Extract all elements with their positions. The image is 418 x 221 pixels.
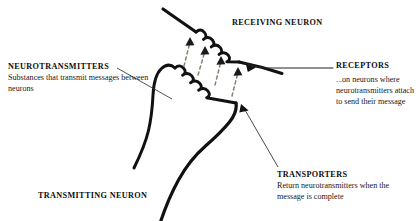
synapse-diagram: NEUROTRANSMITTERS Substances that transm… (0, 0, 418, 221)
transporters-heading: TRANSPORTERS (277, 170, 417, 180)
straight-leader-arrow-icon (239, 104, 248, 113)
transporters-body: Return neurotransmitters when the messag… (277, 180, 417, 202)
label-receiving-neuron: RECEIVING NEURON (232, 18, 322, 28)
receiving-neuron-axon (163, 9, 196, 32)
label-receptors: RECEPTORS ...on neurons where neurotrans… (336, 61, 414, 108)
neurotransmitters-body: Substances that transmit messages betwee… (8, 72, 158, 94)
dashed-up-arrow-icon (216, 56, 225, 65)
receiving-neuron-membrane (196, 30, 239, 62)
receptors-heading: RECEPTORS (336, 61, 414, 71)
transmitting-neuron-right-wall (160, 103, 237, 221)
label-transmitting-neuron: TRANSMITTING NEURON (38, 191, 147, 201)
receptors-body: ...on neurons where neurotransmitters at… (336, 74, 414, 108)
dashed-up-arrow-icon (185, 37, 194, 46)
dashed-up-arrow-icon (200, 46, 209, 55)
leader-line-icon (245, 110, 278, 167)
transmitting-neuron-membrane (175, 66, 236, 103)
transmitting-neuron-heading: TRANSMITTING NEURON (38, 191, 147, 201)
dashed-up-arrow-icon (233, 67, 242, 76)
receiving-neuron-heading: RECEIVING NEURON (232, 18, 322, 28)
neurotransmitter-arrows (184, 42, 238, 96)
label-neurotransmitters: NEUROTRANSMITTERS Substances that transm… (8, 62, 158, 94)
neurotransmitters-heading: NEUROTRANSMITTERS (8, 62, 158, 72)
label-transporters: TRANSPORTERS Return neurotransmitters wh… (277, 170, 417, 202)
